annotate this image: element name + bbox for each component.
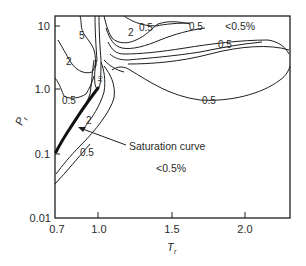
contour-label-0-5-mid: 0.5: [218, 39, 232, 50]
contour-label-2-left: 2: [66, 56, 72, 67]
y-axis-title: P r: [13, 113, 30, 127]
y-ticks: [55, 26, 60, 154]
contour-label-2-top: 2: [128, 27, 134, 38]
contour-label-10: 10: [97, 75, 104, 83]
contour-label-0-5-lower: 0.5: [202, 95, 216, 106]
contour-label-0-5-bottom: 0.5: [80, 147, 94, 158]
x-tick-1-0: 1.0: [91, 223, 106, 235]
contour-label-5: 5: [79, 30, 85, 41]
contour-chart: 10 1.0 0.1 0.01 0.7 1.0 1.5 2.0 T r P r: [0, 0, 306, 266]
contour-label-0-5-top-a: 0.5: [139, 22, 153, 33]
y-tick-10: 10: [38, 20, 50, 32]
x-tick-0-7: 0.7: [49, 223, 64, 235]
x-axis-title: T r: [167, 241, 177, 255]
y-tick-1: 1.0: [35, 83, 50, 95]
contour-label-0-5-left: 0.5: [62, 95, 76, 106]
saturation-annotation: Saturation curve: [78, 127, 206, 152]
contour-label-0-5-top-b: 0.5: [189, 21, 203, 32]
x-tick-2-0: 2.0: [237, 223, 252, 235]
svg-text:r: r: [174, 248, 177, 255]
region-label-bottom: <0.5%: [156, 162, 186, 174]
y-tick-0-1: 0.1: [35, 148, 50, 160]
region-label-top: <0.5%: [225, 20, 255, 32]
contour-label-2-sat: 2: [86, 115, 92, 126]
svg-text:P: P: [13, 115, 27, 127]
svg-text:Saturation curve: Saturation curve: [129, 140, 206, 152]
x-ticks: [98, 212, 245, 218]
y-tick-0-01: 0.01: [30, 212, 51, 224]
x-tick-1-5: 1.5: [164, 223, 179, 235]
